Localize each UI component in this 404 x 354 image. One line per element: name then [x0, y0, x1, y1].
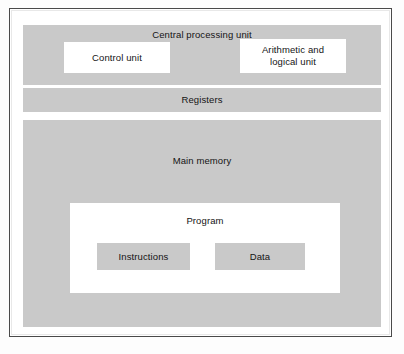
- diagram-canvas: Central processing unit Control unit Ari…: [0, 0, 404, 354]
- block-control-unit: Control unit: [64, 42, 170, 73]
- block-label-arithmetic-and-logical-unit: Arithmetic and logical unit: [240, 44, 346, 68]
- block-label-main-memory: Main memory: [23, 155, 381, 167]
- block-label-data: Data: [215, 251, 305, 263]
- block-arithmetic-and-logical-unit: Arithmetic and logical unit: [240, 39, 346, 73]
- block-label-instructions: Instructions: [97, 251, 190, 263]
- block-label-program: Program: [70, 215, 340, 227]
- block-label-control-unit: Control unit: [64, 52, 170, 64]
- block-data: Data: [215, 243, 305, 270]
- block-label-registers: Registers: [23, 94, 381, 106]
- block-registers: Registers: [23, 88, 381, 112]
- block-instructions: Instructions: [97, 243, 190, 270]
